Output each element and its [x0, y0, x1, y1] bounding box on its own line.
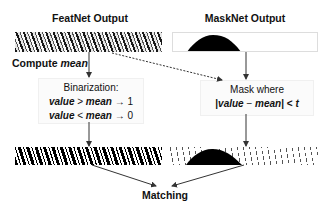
dashed-arrow-mean-to-mask	[112, 53, 222, 80]
matching-label: Matching	[125, 189, 205, 201]
arrow-binarized-to-matching	[92, 165, 156, 186]
arrows-layer	[0, 0, 330, 210]
arrow-masked-to-matching	[172, 165, 244, 186]
